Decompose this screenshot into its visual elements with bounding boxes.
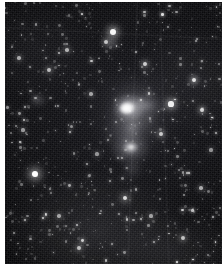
photographic-plate — [0, 0, 222, 270]
paper-margin-top — [0, 0, 222, 2]
plate-scratches-overlay — [5, 2, 222, 264]
paper-margin-bottom — [0, 264, 222, 270]
paper-margin-left — [0, 0, 5, 270]
sky-field — [5, 2, 222, 264]
